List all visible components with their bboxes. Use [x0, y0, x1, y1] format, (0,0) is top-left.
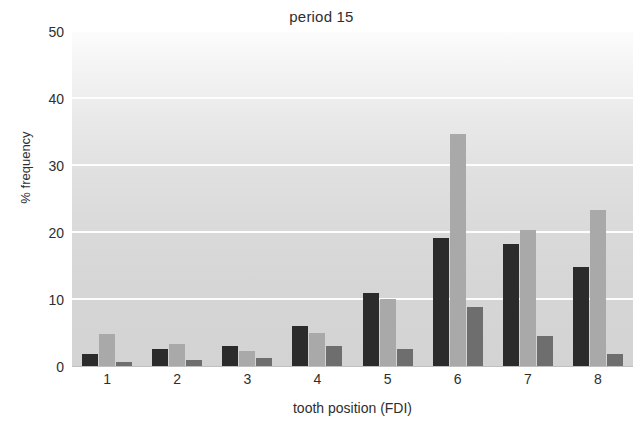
y-tick-label: 0 [4, 359, 64, 375]
gridline [72, 97, 633, 99]
plot-area [72, 32, 633, 367]
bar [537, 336, 553, 367]
bar [450, 134, 466, 367]
x-tick-label: 8 [568, 371, 628, 387]
y-tick-label: 50 [4, 24, 64, 40]
y-tick-label: 30 [4, 158, 64, 174]
x-tick-label: 3 [217, 371, 277, 387]
bar [169, 344, 185, 367]
y-tick-label: 20 [4, 225, 64, 241]
bar-chart: period 15 % frequency 01020304050 123456… [0, 0, 643, 431]
gridline [72, 164, 633, 166]
bar [433, 238, 449, 367]
y-tick-label: 40 [4, 91, 64, 107]
bar [239, 351, 255, 367]
x-tick-label: 4 [287, 371, 347, 387]
x-tick-label: 1 [77, 371, 137, 387]
x-tick-label: 2 [147, 371, 207, 387]
y-axis-ticks: 01020304050 [0, 32, 64, 367]
bar [520, 230, 536, 367]
gridline [72, 298, 633, 300]
bar [590, 210, 606, 367]
bar [607, 354, 623, 367]
gridline [72, 231, 633, 233]
bar [152, 349, 168, 367]
bar [467, 307, 483, 367]
chart-title: period 15 [0, 8, 643, 25]
bar [380, 299, 396, 367]
x-axis-baseline [72, 366, 633, 367]
x-tick-label: 5 [358, 371, 418, 387]
bar [363, 293, 379, 367]
bar [292, 326, 308, 367]
x-axis-ticks: 12345678 [72, 371, 633, 395]
bar [99, 334, 115, 367]
x-tick-label: 7 [498, 371, 558, 387]
bar [222, 346, 238, 367]
x-tick-label: 6 [428, 371, 488, 387]
bar [397, 349, 413, 367]
bar [309, 333, 325, 367]
bar [503, 244, 519, 367]
x-axis-label: tooth position (FDI) [72, 400, 633, 416]
bar [573, 267, 589, 368]
y-tick-label: 10 [4, 292, 64, 308]
bar [326, 346, 342, 367]
